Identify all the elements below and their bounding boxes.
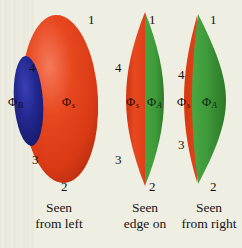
phi-subscript: s [136, 100, 139, 110]
phi-subscript: s [72, 100, 75, 110]
phi-subscript: A [212, 100, 217, 110]
region-label-phi-a: ΦA [147, 96, 162, 110]
region-label-phi-s: Φs [62, 96, 75, 110]
phi-glyph: Φ [177, 95, 186, 109]
phi-glyph: Φ [62, 95, 71, 109]
vertex-label-1: 1 [210, 13, 217, 26]
panel-right-caption: Seen from right [176, 200, 242, 231]
phi-subscript: s [187, 100, 190, 110]
vertex-label-3: 3 [32, 153, 39, 166]
panel-seen-from-right: 1 4 3 2 Φs ΦA Seen from right [176, 0, 242, 248]
phi-subscript: B [18, 100, 23, 110]
panel-seen-edge-on: 1 4 3 2 Φs ΦA Seen edge on [112, 0, 178, 248]
caption-line-2: from left [0, 216, 118, 232]
caption-line-2: from right [176, 216, 242, 232]
vertex-label-1: 1 [149, 13, 156, 26]
vertex-label-4: 4 [178, 68, 185, 81]
vertex-label-4: 4 [115, 61, 122, 74]
panel-left-caption: Seen from left [0, 200, 118, 231]
caption-line-1: Seen [46, 200, 72, 215]
vertex-label-3: 3 [115, 153, 122, 166]
panel-seen-from-left: 1 4 3 2 ΦB Φs Seen from left [0, 0, 118, 248]
phi-glyph: Φ [8, 95, 17, 109]
vertex-label-4: 4 [29, 61, 36, 74]
caption-line-2: edge on [112, 216, 178, 232]
region-label-phi-s: Φs [126, 96, 139, 110]
panel-middle-caption: Seen edge on [112, 200, 178, 231]
phi-glyph: Φ [202, 95, 211, 109]
caption-line-1: Seen [132, 200, 158, 215]
vertex-label-1: 1 [88, 13, 95, 26]
panel-middle-artwork [112, 0, 178, 198]
caption-line-1: Seen [196, 200, 222, 215]
vertex-label-2: 2 [210, 180, 217, 193]
vertex-label-3: 3 [178, 138, 185, 151]
region-label-phi-b: ΦB [8, 96, 23, 110]
region-label-phi-a: ΦA [202, 96, 217, 110]
phi-glyph: Φ [126, 95, 135, 109]
phi-glyph: Φ [147, 95, 156, 109]
region-label-phi-s: Φs [177, 96, 190, 110]
vertex-label-2: 2 [61, 180, 68, 193]
phi-subscript: A [157, 100, 162, 110]
vertex-label-2: 2 [149, 180, 156, 193]
orbital-figure: 1 4 3 2 ΦB Φs Seen from left [0, 0, 242, 248]
